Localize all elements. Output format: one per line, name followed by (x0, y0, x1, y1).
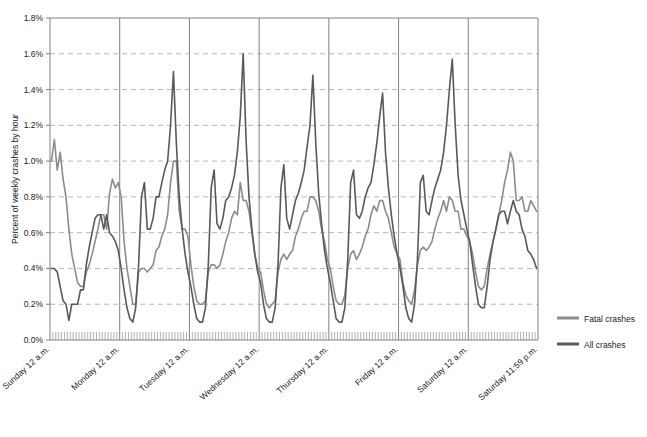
y-tick-label: 0.6% (24, 228, 44, 238)
y-tick-label: 1.6% (24, 49, 44, 59)
legend-label: Fatal crashes (584, 314, 635, 324)
weekly-crashes-line-chart: 0.0%0.2%0.4%0.6%0.8%1.0%1.2%1.4%1.6%1.8%… (0, 0, 647, 437)
y-tick-label: 0.2% (24, 299, 44, 309)
y-tick-label: 1.0% (24, 156, 44, 166)
y-tick-label: 0.0% (24, 335, 44, 345)
chart-container: 0.0%0.2%0.4%0.6%0.8%1.0%1.2%1.4%1.6%1.8%… (0, 0, 647, 437)
y-tick-label: 1.8% (24, 13, 44, 23)
y-tick-label: 1.4% (24, 85, 44, 95)
y-tick-label: 0.4% (24, 263, 44, 273)
y-tick-label: 1.2% (24, 120, 44, 130)
y-axis-title-text: Percent of weekly crashes by hour (10, 114, 20, 244)
legend-label: All crashes (584, 340, 626, 350)
y-tick-label: 0.8% (24, 192, 44, 202)
hour-tick-marks (53, 332, 535, 340)
y-axis-title: Percent of weekly crashes by hour (10, 114, 20, 244)
